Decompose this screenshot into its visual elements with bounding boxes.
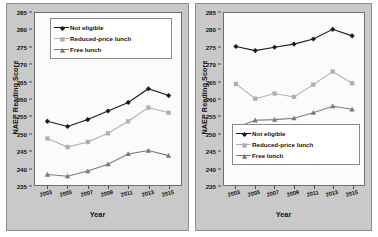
y-tick-label: 275 [17, 43, 27, 50]
legend-item: Not eligible [236, 128, 355, 139]
legend-left: Not eligibleReduced-price lunchFree lunc… [50, 18, 172, 59]
y-tick [29, 99, 32, 100]
data-point-marker [105, 162, 110, 167]
y-tick [218, 29, 221, 30]
x-tick-label: 2005 [59, 189, 73, 198]
legend-label: Free lunch [70, 46, 101, 53]
y-tick [29, 64, 32, 65]
data-point-marker [350, 81, 354, 85]
y-tick-label: 280 [206, 26, 216, 33]
x-tick [314, 186, 315, 189]
y-tick-label: 255 [206, 113, 216, 120]
y-tick-label: 265 [206, 78, 216, 85]
data-point-marker [311, 82, 315, 86]
y-tick [29, 46, 32, 47]
y-tick [29, 12, 32, 13]
data-point-marker [350, 33, 355, 38]
legend-marker-icon [54, 34, 69, 43]
data-point-marker [45, 119, 50, 124]
legend-label: Reduced-price lunch [70, 35, 131, 42]
y-tick [218, 46, 221, 47]
y-tick-label: 235 [17, 183, 27, 190]
legend-item: Reduced-price lunch [54, 33, 167, 44]
data-point-marker [146, 105, 150, 109]
y-tick-label: 240 [206, 165, 216, 172]
y-tick [29, 29, 32, 30]
x-tick-label: 2007 [266, 189, 280, 198]
data-point-marker [331, 69, 335, 73]
y-tick [218, 151, 221, 152]
data-point-marker [272, 91, 276, 95]
y-tick-label: 260 [206, 96, 216, 103]
x-tick-label: 2015 [161, 189, 175, 198]
y-tick-label: 235 [206, 183, 216, 190]
figure-root: NAEP Reading Score 235240245250255260265… [0, 0, 378, 237]
y-tick [29, 133, 32, 134]
y-tick [218, 81, 221, 82]
y-tick-label: 260 [17, 96, 27, 103]
chart-panel-left: NAEP Reading Score 235240245250255260265… [6, 3, 189, 231]
data-point-marker [105, 108, 110, 113]
y-tick [218, 168, 221, 169]
x-tick-label: 2007 [80, 189, 94, 198]
x-tick [255, 186, 256, 189]
series-line [236, 72, 352, 99]
data-point-marker [65, 145, 69, 149]
data-point-marker [86, 140, 90, 144]
y-tick-label: 250 [17, 130, 27, 137]
y-tick-label: 255 [17, 113, 27, 120]
x-tick [47, 186, 48, 189]
y-tick-label: 240 [17, 165, 27, 172]
x-tick-label: 2013 [141, 189, 155, 198]
legend-marker-icon [236, 129, 251, 138]
y-tick [29, 186, 32, 187]
y-tick-label: 270 [17, 61, 27, 68]
data-point-marker [85, 117, 90, 122]
x-tick [149, 186, 150, 189]
x-tick-label: 2011 [306, 189, 319, 198]
x-tick-label: 2009 [286, 189, 300, 198]
x-axis-labels-right: 2003200520072009201120132015 [223, 190, 365, 208]
chart-panel-right: NAEP Reading Score 235240245250255260265… [195, 3, 372, 231]
legend-label: Reduced-price lunch [252, 141, 313, 148]
y-tick-label: 265 [17, 78, 27, 85]
legend-item: Reduced-price lunch [236, 139, 355, 150]
legend-label: Not eligible [252, 130, 285, 137]
y-tick [29, 116, 32, 117]
y-tick-label: 280 [17, 26, 27, 33]
legend-right: Not eligibleReduced-price lunchFree lunc… [232, 124, 360, 165]
y-axis-labels-right: 235240245250255260265270275280285 [196, 12, 221, 186]
y-tick [218, 186, 221, 187]
x-axis-title-right: Year [196, 210, 371, 219]
legend-item: Free lunch [236, 150, 355, 161]
y-tick-label: 250 [206, 130, 216, 137]
data-point-marker [234, 82, 238, 86]
legend-marker-icon [54, 23, 69, 32]
data-point-marker [253, 96, 257, 100]
y-tick [29, 81, 32, 82]
legend-item: Not eligible [54, 22, 167, 33]
y-tick [218, 99, 221, 100]
y-tick-label: 245 [206, 148, 216, 155]
x-tick-label: 2005 [247, 189, 261, 198]
data-point-marker [292, 95, 296, 99]
x-tick [353, 186, 354, 189]
legend-marker-icon [236, 140, 251, 149]
legend-item: Free lunch [54, 44, 167, 55]
legend-marker-icon [236, 151, 251, 160]
data-point-marker [291, 42, 296, 47]
data-point-marker [233, 44, 238, 49]
data-point-marker [253, 48, 258, 53]
x-tick-label: 2009 [100, 189, 114, 198]
x-tick-label: 2013 [325, 189, 339, 198]
y-tick [218, 64, 221, 65]
legend-label: Free lunch [252, 152, 283, 159]
y-axis-labels-left: 235240245250255260265270275280285 [7, 12, 32, 186]
x-tick-label: 2003 [227, 189, 241, 198]
legend-label: Not eligible [70, 24, 103, 31]
y-tick-label: 245 [17, 148, 27, 155]
y-tick [29, 168, 32, 169]
y-tick-label: 275 [206, 43, 216, 50]
y-tick-label: 285 [206, 9, 216, 16]
y-tick [218, 116, 221, 117]
